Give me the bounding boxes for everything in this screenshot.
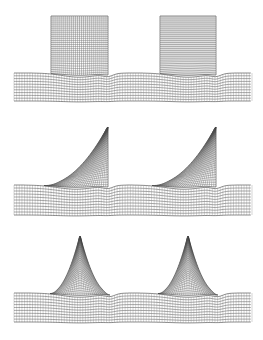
panel-triangular-ramp [0,110,263,225]
panel-rectangular-canvas [0,0,263,110]
panel-isoceles-triangular-canvas [0,225,263,340]
panel-isoceles-triangular [0,225,263,340]
panel-rectangular [0,0,263,110]
panel-triangular-ramp-canvas [0,110,263,225]
mesh-figure [0,0,263,340]
